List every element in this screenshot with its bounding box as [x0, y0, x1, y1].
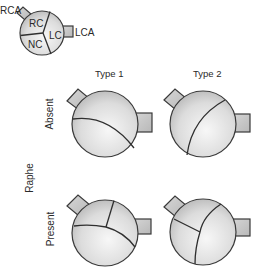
- key-diagram: RCA LCA RC LC NC: [0, 5, 95, 55]
- column-header-type-2: Type 2: [193, 68, 222, 79]
- valve-type1-raphe-absent: [67, 89, 152, 157]
- valve-circle: [72, 200, 138, 266]
- lc-cusp-label: LC: [49, 30, 62, 41]
- row-label-absent: Absent: [44, 98, 55, 129]
- rca-label: RCA: [0, 5, 21, 16]
- lca-label: LCA: [75, 27, 95, 38]
- column-header-type-1: Type 1: [95, 68, 124, 79]
- valve-circle: [170, 91, 236, 157]
- valve-type2-raphe-present: [164, 196, 250, 265]
- rc-cusp-label: RC: [29, 18, 43, 29]
- valve-type1-raphe-present: [67, 195, 151, 266]
- valve-type2-raphe-absent: [164, 89, 250, 157]
- row-label-present: Present: [45, 212, 56, 247]
- row-axis-label-raphe: Raphe: [24, 163, 35, 193]
- bicuspid-valve-classification-diagram: RCA LCA RC LC NC Type 1 Type 2 Raphe Abs…: [0, 0, 255, 273]
- valve-circle: [170, 199, 236, 265]
- nc-cusp-label: NC: [28, 39, 42, 50]
